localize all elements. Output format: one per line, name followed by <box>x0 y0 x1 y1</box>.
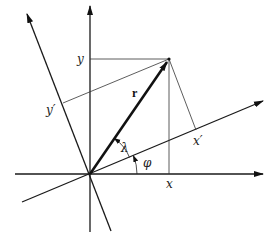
rotated-axes-diagram: y y′ r x′ λ φ x <box>0 0 274 240</box>
x-prime-projection-line <box>169 59 196 130</box>
y-prime-axis <box>27 14 111 231</box>
vector-tip-point <box>167 57 170 60</box>
x-prime-axis <box>22 101 263 202</box>
lambda-label: λ <box>120 141 129 155</box>
phi-label: φ <box>143 156 152 170</box>
y-prime-label: y′ <box>45 103 56 117</box>
vector-r-label: r <box>132 86 138 100</box>
y-label: y <box>76 52 84 66</box>
x-label: x <box>166 177 173 191</box>
phi-angle-arc <box>134 156 138 174</box>
x-prime-label: x′ <box>193 134 203 148</box>
